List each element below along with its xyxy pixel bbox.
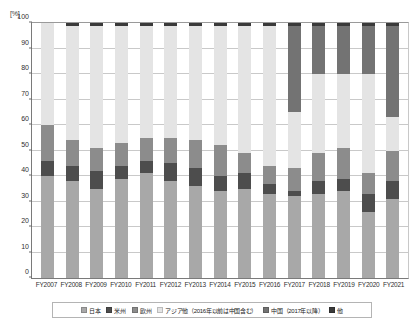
bar-segment[interactable] xyxy=(214,145,227,176)
bar-segment[interactable] xyxy=(189,26,202,141)
bar-segment[interactable] xyxy=(115,166,128,179)
bar-segment[interactable] xyxy=(164,26,177,138)
bar-segment[interactable] xyxy=(337,191,350,278)
bar-column[interactable] xyxy=(134,23,159,278)
bar-column[interactable] xyxy=(158,23,183,278)
bar-column[interactable] xyxy=(35,23,60,278)
bar-segment[interactable] xyxy=(90,148,103,171)
bar-segment[interactable] xyxy=(362,74,375,173)
bar-segment[interactable] xyxy=(115,179,128,278)
bar-segment[interactable] xyxy=(362,194,375,212)
legend-item-asia_other[interactable]: アジア他（2016年以前は中国含む） xyxy=(157,306,257,315)
bar-segment[interactable] xyxy=(214,26,227,146)
legend-item-other[interactable]: 他 xyxy=(329,306,343,315)
bar-column[interactable] xyxy=(183,23,208,278)
bar-segment[interactable] xyxy=(386,151,399,182)
bar-stack[interactable] xyxy=(386,23,399,278)
bar-stack[interactable] xyxy=(41,23,54,278)
bar-stack[interactable] xyxy=(362,23,375,278)
bar-segment[interactable] xyxy=(41,125,54,161)
bar-stack[interactable] xyxy=(238,23,251,278)
bar-stack[interactable] xyxy=(66,23,79,278)
bar-column[interactable] xyxy=(257,23,282,278)
bar-segment[interactable] xyxy=(164,163,177,181)
bar-segment[interactable] xyxy=(386,26,399,118)
bar-segment[interactable] xyxy=(238,26,251,154)
bar-segment[interactable] xyxy=(312,194,325,278)
bar-segment[interactable] xyxy=(66,26,79,141)
bar-segment[interactable] xyxy=(312,181,325,194)
bar-segment[interactable] xyxy=(66,181,79,278)
bar-stack[interactable] xyxy=(214,23,227,278)
bar-segment[interactable] xyxy=(66,140,79,166)
bar-column[interactable] xyxy=(282,23,307,278)
bar-stack[interactable] xyxy=(115,23,128,278)
bar-segment[interactable] xyxy=(41,161,54,176)
bar-column[interactable] xyxy=(60,23,85,278)
bar-segment[interactable] xyxy=(164,138,177,164)
bar-segment[interactable] xyxy=(214,191,227,278)
bar-segment[interactable] xyxy=(362,212,375,278)
bar-segment[interactable] xyxy=(337,26,350,74)
bar-segment[interactable] xyxy=(386,199,399,278)
bar-column[interactable] xyxy=(356,23,381,278)
bar-stack[interactable] xyxy=(189,23,202,278)
bar-column[interactable] xyxy=(380,23,405,278)
bar-column[interactable] xyxy=(208,23,233,278)
bar-stack[interactable] xyxy=(263,23,276,278)
bar-segment[interactable] xyxy=(189,168,202,186)
bar-segment[interactable] xyxy=(288,26,301,113)
bar-segment[interactable] xyxy=(288,168,301,191)
bar-segment[interactable] xyxy=(140,173,153,278)
bar-segment[interactable] xyxy=(238,189,251,278)
bar-column[interactable] xyxy=(109,23,134,278)
bar-segment[interactable] xyxy=(90,171,103,189)
bar-stack[interactable] xyxy=(337,23,350,278)
bar-segment[interactable] xyxy=(140,161,153,174)
legend-item-americas[interactable]: 米州 xyxy=(106,306,125,315)
bar-segment[interactable] xyxy=(337,148,350,179)
bar-stack[interactable] xyxy=(90,23,103,278)
bar-segment[interactable] xyxy=(263,26,276,166)
bar-segment[interactable] xyxy=(263,194,276,278)
legend-item-japan[interactable]: 日本 xyxy=(81,306,100,315)
bar-segment[interactable] xyxy=(312,26,325,74)
bar-segment[interactable] xyxy=(312,74,325,153)
bar-segment[interactable] xyxy=(189,140,202,168)
bar-stack[interactable] xyxy=(288,23,301,278)
legend-item-europe[interactable]: 欧州 xyxy=(132,306,151,315)
bar-segment[interactable] xyxy=(140,26,153,138)
bar-stack[interactable] xyxy=(140,23,153,278)
bar-segment[interactable] xyxy=(386,117,399,150)
bar-segment[interactable] xyxy=(337,179,350,192)
bar-segment[interactable] xyxy=(164,181,177,278)
bar-column[interactable] xyxy=(331,23,356,278)
bar-segment[interactable] xyxy=(288,196,301,278)
bar-segment[interactable] xyxy=(238,173,251,188)
bar-stack[interactable] xyxy=(312,23,325,278)
bar-segment[interactable] xyxy=(115,143,128,166)
bar-segment[interactable] xyxy=(90,189,103,278)
bar-segment[interactable] xyxy=(41,176,54,278)
bar-segment[interactable] xyxy=(386,181,399,199)
bar-segment[interactable] xyxy=(362,26,375,74)
bar-column[interactable] xyxy=(84,23,109,278)
bar-segment[interactable] xyxy=(362,173,375,193)
bar-segment[interactable] xyxy=(337,74,350,148)
bar-stack[interactable] xyxy=(164,23,177,278)
bar-segment[interactable] xyxy=(312,153,325,181)
bar-segment[interactable] xyxy=(41,23,54,125)
bar-segment[interactable] xyxy=(90,26,103,148)
bar-segment[interactable] xyxy=(189,186,202,278)
bar-segment[interactable] xyxy=(263,166,276,184)
bar-segment[interactable] xyxy=(288,112,301,168)
bar-segment[interactable] xyxy=(214,176,227,191)
bar-segment[interactable] xyxy=(140,138,153,161)
bar-segment[interactable] xyxy=(263,184,276,194)
bar-segment[interactable] xyxy=(238,153,251,173)
bar-segment[interactable] xyxy=(66,166,79,181)
bar-column[interactable] xyxy=(306,23,331,278)
legend-item-china[interactable]: 中国（2017年以降） xyxy=(263,306,323,315)
bar-segment[interactable] xyxy=(115,26,128,143)
bar-column[interactable] xyxy=(232,23,257,278)
